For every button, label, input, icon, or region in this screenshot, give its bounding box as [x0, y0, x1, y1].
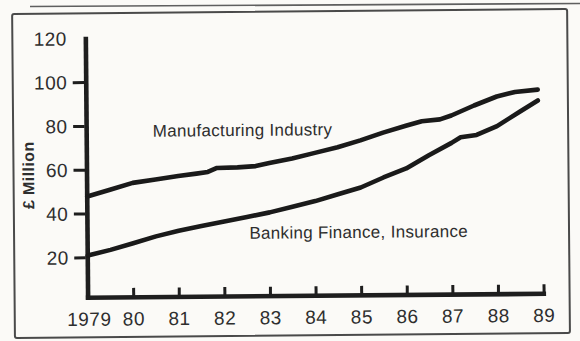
axis-ticks: [73, 79, 544, 297]
series-label: Banking Finance, Insurance: [249, 222, 468, 243]
x-tick-label: 83: [260, 307, 282, 328]
x-tick-label: 84: [305, 307, 327, 328]
y-axis-title: £ Million: [20, 141, 38, 209]
axes: [84, 33, 547, 300]
x-tick-label: 87: [442, 305, 464, 326]
y-tick-label: 120: [34, 28, 67, 49]
y-tick-label: 80: [45, 116, 67, 137]
axis-tick-labels: 12010080604020197980818283848586878889: [34, 24, 556, 330]
chart-frame: [12, 9, 570, 338]
y-tick-label: 40: [46, 204, 68, 225]
line-chart: 12010080604020197980818283848586878889 M…: [0, 0, 580, 341]
x-tick-label: 89: [533, 305, 555, 326]
x-tick-label: 86: [396, 306, 418, 327]
y-tick-label: 20: [47, 247, 69, 268]
y-tick-label: 60: [46, 160, 68, 181]
x-axis-line: [86, 294, 546, 298]
x-tick-label: 1979: [67, 309, 111, 330]
series-label: Manufacturing Industry: [153, 120, 333, 141]
series-curve: [86, 90, 538, 197]
y-tick-label: 100: [34, 72, 67, 93]
x-tick-label: 81: [168, 308, 190, 329]
x-tick-label: 82: [214, 307, 236, 328]
x-tick-label: 88: [488, 305, 510, 326]
x-tick-label: 85: [351, 306, 373, 327]
y-axis-line: [86, 37, 88, 300]
scan-artifact-line: [30, 4, 580, 7]
x-tick-label: 80: [123, 308, 145, 329]
